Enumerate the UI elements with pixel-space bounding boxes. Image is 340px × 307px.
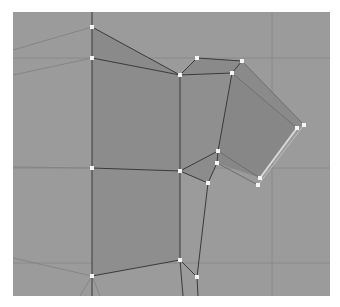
vertex[interactable] xyxy=(230,71,234,75)
vertex[interactable] xyxy=(178,73,182,77)
vertex[interactable] xyxy=(256,183,260,187)
vertex[interactable] xyxy=(258,176,262,180)
vertex[interactable] xyxy=(216,149,220,153)
vertex[interactable] xyxy=(90,56,94,60)
outer-edges xyxy=(13,27,100,296)
vertex[interactable] xyxy=(178,258,182,262)
vertex[interactable] xyxy=(215,161,219,165)
vertex[interactable] xyxy=(302,123,306,127)
mesh-canvas[interactable] xyxy=(0,0,340,307)
vertex[interactable] xyxy=(90,166,94,170)
vertex[interactable] xyxy=(90,25,94,29)
vertex[interactable] xyxy=(195,275,199,279)
vertex[interactable] xyxy=(178,169,182,173)
vertex[interactable] xyxy=(206,181,210,185)
vertex[interactable] xyxy=(240,59,244,63)
vertex[interactable] xyxy=(90,274,94,278)
vertex[interactable] xyxy=(295,126,299,130)
vertex[interactable] xyxy=(195,56,199,60)
